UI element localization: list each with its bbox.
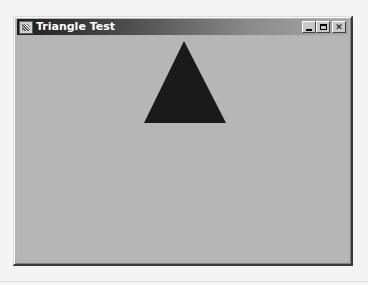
- canvas-svg: [17, 37, 349, 262]
- java-cup-icon[interactable]: [19, 21, 33, 34]
- window-controls: ✕: [302, 21, 346, 33]
- drawing-canvas: [17, 37, 348, 261]
- title-bar[interactable]: Triangle Test ✕: [17, 19, 348, 35]
- minimize-icon: [306, 29, 312, 31]
- close-icon: ✕: [335, 23, 343, 32]
- window-title: Triangle Test: [36, 19, 115, 35]
- minimize-button[interactable]: [302, 21, 316, 33]
- close-button[interactable]: ✕: [332, 21, 346, 33]
- maximize-icon: [320, 24, 327, 30]
- app-window: Triangle Test ✕: [13, 16, 353, 266]
- divider: [0, 281, 368, 282]
- triangle-shape: [144, 41, 226, 123]
- maximize-button[interactable]: [316, 21, 330, 33]
